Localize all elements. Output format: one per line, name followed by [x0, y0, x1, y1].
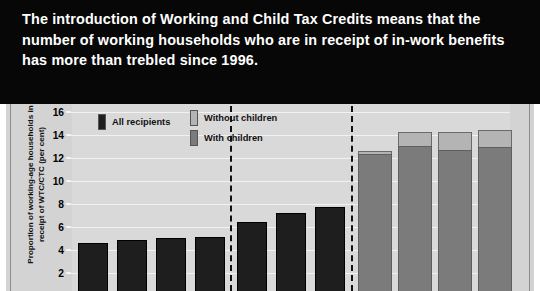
bar	[237, 222, 267, 291]
y-tick-label: 10	[36, 176, 64, 187]
bar	[195, 237, 225, 291]
y-tick-label: 4	[36, 245, 64, 256]
bar-segment-with-children	[358, 154, 392, 291]
y-tick-mark	[66, 249, 71, 251]
legend-swatch-without-children	[190, 110, 198, 126]
y-tick-label: 2	[36, 268, 64, 279]
y-tick-label: 6	[36, 222, 64, 233]
bar-segment-with-children	[478, 147, 512, 291]
bar	[156, 238, 186, 291]
y-tick-mark	[66, 157, 71, 159]
y-tick-mark	[66, 180, 71, 182]
bar-segment-with-children	[398, 146, 432, 291]
bar-segment-without-children	[438, 132, 472, 149]
bar	[117, 240, 147, 291]
y-tick-mark	[66, 226, 71, 228]
legend-swatch-all-recipients	[98, 114, 106, 130]
legend-label-without-children: Without children	[204, 113, 277, 123]
legend-item-with-children: With children	[190, 130, 263, 146]
chart-figure: The introduction of Working and Child Ta…	[0, 0, 540, 291]
group-divider-2	[351, 106, 353, 291]
legend-item-all-recipients: All recipients	[98, 114, 170, 130]
legend-label-all-recipients: All recipients	[112, 117, 170, 127]
group-divider-1	[230, 106, 232, 291]
bar	[398, 132, 432, 291]
title-banner: The introduction of Working and Child Ta…	[0, 0, 540, 104]
bar	[78, 243, 108, 291]
y-tick-label: 8	[36, 199, 64, 210]
y-tick-label: 12	[36, 153, 64, 164]
bar-segment-without-children	[398, 132, 432, 146]
bar-segment-without-children	[358, 151, 392, 154]
bar-segment-without-children	[478, 130, 512, 147]
bar	[478, 130, 512, 291]
y-tick-mark	[66, 272, 71, 274]
bar	[358, 151, 392, 291]
legend-label-with-children: With children	[204, 133, 263, 143]
y-tick-mark	[66, 203, 71, 205]
bar	[438, 132, 472, 291]
legend-item-without-children: Without children	[190, 110, 277, 126]
bar	[315, 207, 345, 291]
chart-panel: Proportion of working-age households in …	[0, 104, 540, 291]
legend-swatch-with-children	[190, 130, 198, 146]
bar	[276, 213, 306, 291]
banner-title: The introduction of Working and Child Ta…	[22, 9, 522, 71]
bar-segment-with-children	[438, 150, 472, 291]
